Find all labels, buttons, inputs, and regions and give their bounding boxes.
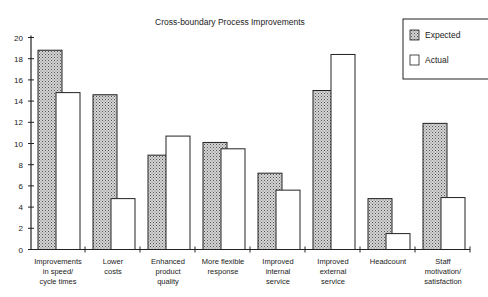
y-tick-label: 2 [19,224,24,233]
y-tick-label: 4 [19,203,24,212]
x-tick-label: motivation/ [425,267,462,276]
y-tick-label: 12 [14,118,23,127]
x-tick-label: Improved [262,257,293,266]
y-tick-label: 6 [19,182,24,191]
bar-actual [221,149,245,250]
x-tick-label: costs [104,267,122,276]
bars [38,50,465,249]
x-tick-label: Improvements [34,257,82,266]
x-tick-label: Headcount [370,257,407,266]
y-tick-label: 18 [14,55,23,64]
legend-swatch-actual [410,55,419,65]
legend-box [403,19,488,79]
bar-actual [276,190,300,249]
x-tick-label: cycle times [39,277,76,286]
bar-actual [331,54,355,249]
x-tick-label: Lower [103,257,124,266]
bar-actual [441,198,465,250]
x-tick-label: external [320,267,347,276]
x-tick-label: service [321,277,345,286]
y-tick-label: 10 [14,140,23,149]
bar-actual [166,136,190,249]
x-tick-label: satisfaction [424,277,462,286]
x-tick-label: service [266,277,290,286]
bar-actual [111,199,135,250]
x-tick-label: in speed/ [43,267,74,276]
legend-swatch-expected [410,30,419,40]
y-tick-label: 8 [19,161,24,170]
y-tick-label: 20 [14,34,23,43]
bar-chart: Cross-boundary Process Improvements 0246… [0,0,488,297]
bar-actual [386,234,410,250]
x-tick-label: More flexible [202,257,245,266]
y-axis: 02468101214161820 [14,34,34,255]
legend: Expected Actual [403,19,488,79]
legend-label-actual: Actual [425,55,449,65]
y-tick-label: 14 [14,97,23,106]
y-tick-label: 0 [19,246,24,255]
x-tick-label: Improved [317,257,348,266]
x-tick-label: Enhanced [151,257,185,266]
chart-title: Cross-boundary Process Improvements [155,17,305,27]
legend-label-expected: Expected [425,30,461,40]
x-tick-label: product [155,267,181,276]
x-tick-label: quality [157,277,179,286]
x-tick-label: internal [266,267,291,276]
y-tick-label: 16 [14,76,23,85]
x-tick-label: Staff [435,257,451,266]
x-tick-labels: Improvementsin speed/cycle timesLowercos… [34,257,462,286]
x-tick-label: response [208,267,239,276]
bar-actual [56,93,80,250]
